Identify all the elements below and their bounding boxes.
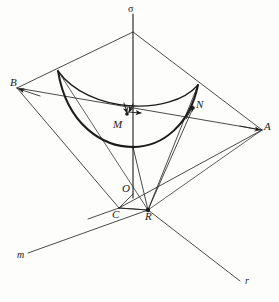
ray-R-to-A	[148, 130, 262, 210]
quad-edge-apex-B	[17, 32, 133, 88]
lower-curve	[58, 71, 198, 147]
segment-C-O	[119, 194, 133, 208]
label-O: O	[122, 183, 130, 194]
figure-canvas: σ B A N M O C R m r	[0, 0, 279, 302]
ray-R-to-N	[148, 108, 193, 210]
label-sigma: σ	[128, 4, 133, 14]
label-C: C	[112, 209, 119, 220]
vector-arrow-M-down-left	[124, 103, 127, 113]
vector-arrow-M-right	[128, 112, 141, 113]
label-M: M	[113, 119, 122, 130]
dot-N	[191, 106, 195, 110]
ray-R-to-curve-vertex	[133, 147, 148, 210]
diagonal-B-A	[17, 88, 262, 130]
line-r	[148, 210, 240, 281]
quad-edge-A-apex	[133, 32, 262, 130]
dot-M	[125, 112, 129, 116]
label-B: B	[10, 77, 17, 88]
geometry-diagram	[0, 0, 279, 302]
label-N: N	[196, 99, 203, 110]
dot-curve-vertex	[131, 145, 134, 148]
quad-edge-B-C	[17, 88, 119, 208]
label-m: m	[17, 250, 24, 260]
upper-curve	[58, 71, 198, 106]
label-r: r	[245, 276, 249, 286]
quad-edge-C-A	[119, 130, 262, 208]
ray-R-to-curve-right	[148, 85, 198, 210]
label-A: A	[264, 121, 271, 132]
line-m-extension	[119, 208, 148, 210]
label-R: R	[145, 211, 152, 222]
line-m	[28, 210, 148, 253]
